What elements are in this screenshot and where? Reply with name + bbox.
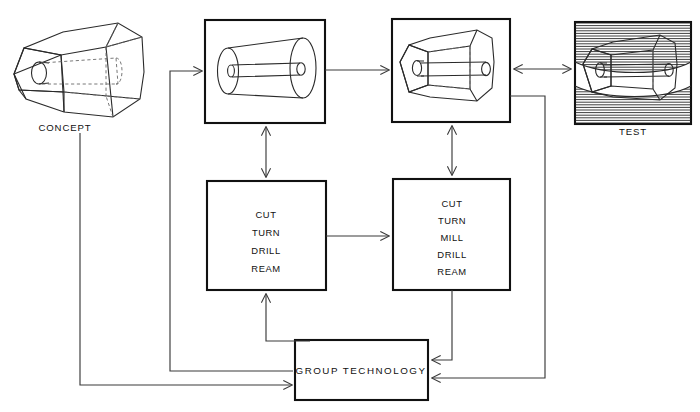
process-left-op-1: TURN	[252, 227, 280, 238]
group-technology-label: GROUP TECHNOLOGY	[296, 365, 427, 376]
process-right-op-0: CUT	[442, 198, 463, 209]
machined-part-node[interactable]	[392, 19, 510, 122]
connector-process-right-to-group-technology	[432, 290, 452, 360]
process-right-node[interactable]: CUT TURN MILL DRILL REAM	[393, 179, 510, 290]
process-flow-diagram: CONCEPT	[0, 0, 700, 412]
test-node[interactable]: TEST	[575, 22, 691, 137]
process-right-op-2: MILL	[440, 232, 463, 243]
design-part-node[interactable]	[205, 20, 325, 123]
group-technology-node[interactable]: GROUP TECHNOLOGY	[295, 340, 428, 400]
process-right-op-1: TURN	[438, 215, 466, 226]
concept-caption: CONCEPT	[38, 122, 91, 133]
process-right-op-4: REAM	[437, 266, 466, 277]
process-left-op-3: REAM	[251, 263, 280, 274]
process-right-op-3: DRILL	[437, 249, 466, 260]
diagram-canvas: CONCEPT	[0, 0, 700, 412]
connector-group-technology-to-process-left	[266, 294, 310, 341]
process-left-op-0: CUT	[256, 209, 277, 220]
concept-part-drawing: CONCEPT	[14, 23, 144, 133]
process-left-node[interactable]: CUT TURN DRILL REAM	[207, 181, 326, 290]
test-caption: TEST	[619, 126, 647, 137]
process-left-op-2: DRILL	[251, 245, 280, 256]
